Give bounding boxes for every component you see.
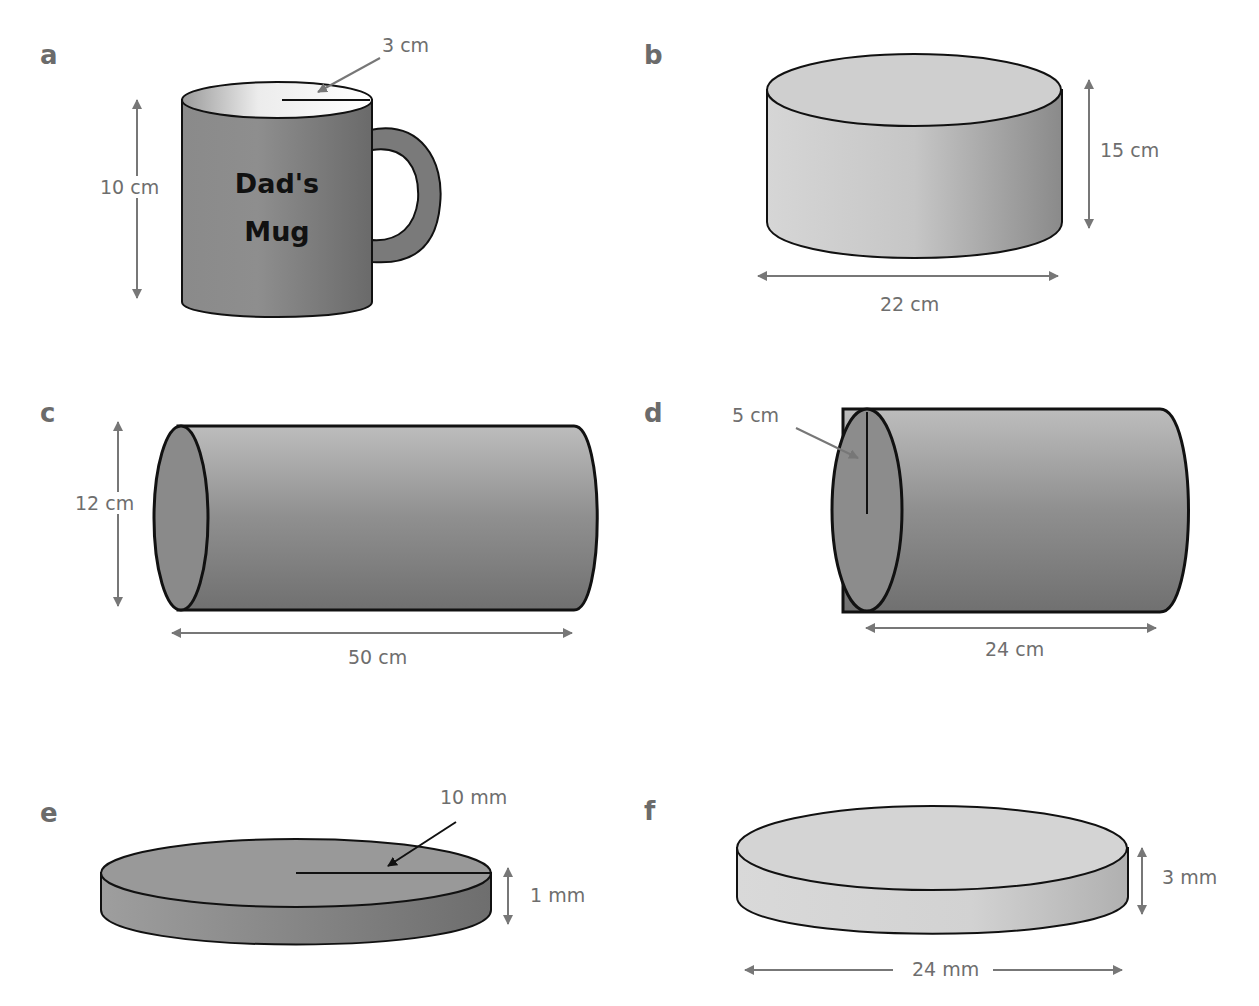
b-diameter-label: 22 cm	[880, 293, 939, 315]
d-radius-label: 5 cm	[732, 404, 779, 426]
figure-c-cylinder	[118, 422, 597, 633]
figure-c-label: c	[40, 398, 55, 428]
b-height-label: 15 cm	[1100, 139, 1159, 161]
c-diameter-label: 12 cm	[75, 492, 134, 514]
figures-canvas	[0, 0, 1259, 1006]
c-length-label: 50 cm	[348, 646, 407, 668]
figure-f-disc	[737, 806, 1142, 970]
e-height-label: 1 mm	[530, 884, 585, 906]
e-radius-label: 10 mm	[440, 786, 507, 808]
figure-d-label: d	[644, 398, 663, 428]
figure-b-label: b	[644, 40, 663, 70]
figure-a-label: a	[40, 40, 58, 70]
d-length-label: 24 cm	[985, 638, 1044, 660]
a-radius-label: 3 cm	[382, 34, 429, 56]
mug-text-line1: Dad's	[212, 160, 342, 208]
figure-e-disc	[101, 822, 508, 945]
figure-f-label: f	[644, 796, 655, 826]
a-height-label: 10 cm	[100, 176, 159, 198]
mug-text: Dad's Mug	[212, 160, 342, 256]
figure-b-cylinder	[758, 54, 1089, 276]
figure-e-label: e	[40, 798, 58, 828]
f-height-label: 3 mm	[1162, 866, 1217, 888]
figure-d-cylinder	[796, 409, 1189, 628]
f-diameter-label: 24 mm	[912, 958, 979, 980]
mug-text-line2: Mug	[212, 208, 342, 256]
